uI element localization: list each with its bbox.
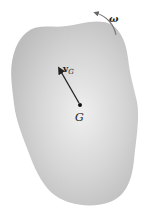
center-of-mass-dot: [78, 103, 82, 107]
rigid-body-diagram: ω vG G: [0, 0, 146, 210]
center-of-mass-label: G: [75, 111, 84, 124]
angular-velocity-label: ω: [109, 13, 119, 24]
